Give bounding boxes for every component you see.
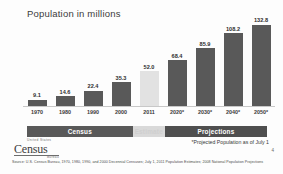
bar-rect (168, 60, 187, 106)
bar-rect (112, 82, 131, 106)
source-citation: Source: U.S. Census Bureau, 1970, 1980, … (12, 160, 263, 164)
legend-segment-census: Census (27, 126, 133, 137)
x-axis-line (23, 106, 275, 107)
chart-footnote: *Projected Population as of July 1 (191, 139, 269, 145)
x-axis-tick-label: 2050* (249, 109, 273, 115)
bar-value-label: 52.0 (144, 65, 155, 71)
bar-value-label: 68.4 (172, 54, 183, 60)
legend-segment-projections: Projections (165, 126, 267, 137)
bar-value-label: 132.8 (254, 18, 268, 24)
census-bureau-logo: United States Census Bureau (14, 139, 74, 159)
bar-value-label: 35.3 (116, 76, 127, 82)
bar-column[interactable]: 68.4 (165, 18, 189, 106)
page-number: 4 (271, 148, 274, 153)
x-axis-tick-label: 2020* (165, 109, 189, 115)
bar-rect (140, 71, 159, 106)
logo-bottom-text: Bureau (14, 156, 59, 160)
bar-column-estimate[interactable]: 52.0 (137, 18, 161, 106)
x-axis-tick-label: 2000 (109, 109, 133, 115)
bar-rect (224, 33, 243, 106)
bar-rect (196, 48, 215, 106)
bar-column[interactable]: 35.3 (109, 18, 133, 106)
logo-main-text: Census (14, 143, 74, 155)
bar-value-label: 22.4 (88, 84, 99, 90)
x-axis-tick-label: 1970 (25, 109, 49, 115)
bar-rect (56, 96, 75, 106)
x-axis-labels: 1970 1980 1990 2000 2011 2020* 2030* 204… (25, 109, 273, 115)
x-axis-tick-label: 2030* (193, 109, 217, 115)
x-axis-tick-label: 2011 (137, 109, 161, 115)
bar-column[interactable]: 22.4 (81, 18, 105, 106)
bar-value-label: 108.2 (226, 27, 240, 33)
bar-column[interactable]: 9.1 (25, 18, 49, 106)
bar-value-label: 9.1 (33, 93, 41, 99)
x-axis-tick-label: 1990 (81, 109, 105, 115)
bar-rect (84, 91, 103, 106)
bar-column[interactable]: 14.6 (53, 18, 77, 106)
x-axis-tick-label: 2040* (221, 109, 245, 115)
x-axis-tick-label: 1980 (53, 109, 77, 115)
bar-column[interactable]: 132.8 (249, 18, 273, 106)
bar-value-label: 85.9 (200, 42, 211, 48)
legend-segment-estimate: Estimate (133, 126, 165, 137)
bar-value-label: 14.6 (60, 90, 71, 96)
bar-series: 9.1 14.6 22.4 35.3 52.0 68.4 (25, 18, 273, 106)
chart-plot-area: 9.1 14.6 22.4 35.3 52.0 68.4 (25, 18, 273, 106)
slide-canvas: Population in millions 9.1 14.6 22.4 35.… (0, 0, 283, 174)
bar-rect (252, 25, 271, 106)
bar-column[interactable]: 108.2 (221, 18, 245, 106)
bar-column[interactable]: 85.9 (193, 18, 217, 106)
chart-legend: Census Estimate Projections (27, 126, 267, 137)
